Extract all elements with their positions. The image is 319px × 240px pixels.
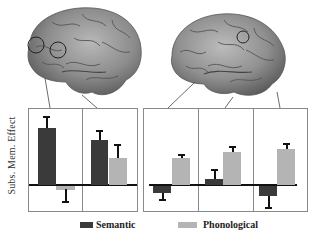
bar-phonological-region-5	[277, 149, 295, 185]
bar-phonological-region-4	[223, 152, 241, 185]
error-cap	[283, 143, 290, 145]
y-axis-label: Subs. Mem. Effect	[6, 101, 17, 211]
right-chart-panel	[143, 108, 308, 212]
bar-phonological-region-2	[109, 158, 127, 185]
error-cap	[229, 146, 236, 148]
region-circle-2	[50, 42, 66, 58]
legend-swatch-phonological	[178, 222, 197, 228]
error-cap	[211, 169, 218, 171]
bar-semantic-region-5	[259, 186, 277, 196]
bar-semantic-region-2	[91, 140, 108, 185]
bar-semantic-region-1	[38, 128, 56, 185]
error-cap	[43, 116, 50, 118]
bar-semantic-region-3	[153, 186, 171, 193]
bar-phonological-region-3	[172, 158, 190, 185]
error-cap	[265, 207, 272, 209]
error-cap	[159, 199, 166, 201]
bar-semantic-region-4	[205, 179, 223, 185]
legend-label-phonological: Phonological	[203, 219, 258, 230]
region-circle-1	[28, 37, 44, 53]
error-bar	[117, 144, 119, 158]
legend-label-semantic: Semantic	[96, 219, 135, 230]
error-cap	[178, 154, 185, 156]
legend-swatch-semantic	[80, 222, 93, 228]
error-cap	[96, 130, 103, 132]
left-chart-panel	[28, 108, 138, 212]
error-cap	[114, 144, 121, 146]
panel-divider	[198, 109, 199, 211]
region-circle-3	[237, 31, 249, 43]
error-cap	[62, 201, 69, 203]
panel-divider	[253, 109, 254, 211]
panel-divider	[82, 109, 83, 211]
